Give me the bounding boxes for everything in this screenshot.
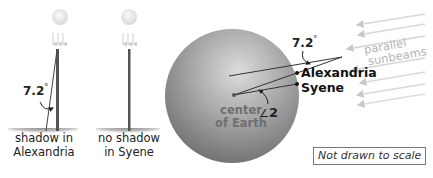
sun-ray-arrows-icon [53,33,63,44]
eratosthenes-diagram: 7.2° shadow in Alexandria no shadow in S… [0,0,433,178]
center-angle-label: ∠2 [259,106,278,119]
stick-syene [128,49,131,131]
alexandria-point [295,71,299,75]
alexandria-label: Alexandria [301,67,377,80]
syene-point [295,82,299,86]
angle-value: 7.2 [292,36,313,50]
center-of-earth-point [232,93,236,97]
degree-symbol: ° [44,83,48,92]
stick-alexandria [56,49,59,131]
alexandria-angle-label: 7.2° [23,85,48,97]
label-line: in Syene [96,145,162,159]
label-line: Alexandria [10,145,78,159]
degree-symbol: ° [313,35,317,44]
alexandria-stick-group [8,9,78,136]
earth-top-angle-label: 7.2° [292,37,317,49]
angle-value: 2 [269,105,278,120]
sun-icon [52,9,68,25]
label-line: shadow in [10,131,78,145]
sun-ray-arrows-icon [123,33,133,44]
angle-symbol-icon: ∠ [259,107,269,120]
angle-value: 7.2 [23,84,44,98]
not-to-scale-note: Not drawn to scale [313,147,426,165]
angle-arc-icon [40,102,53,109]
label-line: no shadow [96,131,162,145]
earth-sphere [165,29,299,163]
syene-stick-group [96,9,160,136]
top-angle-arc-icon [302,51,310,64]
syene-label: Syene [301,82,344,95]
sun-icon [121,9,137,25]
shadow-in-alexandria-label: shadow in Alexandria [10,131,78,159]
no-shadow-in-syene-label: no shadow in Syene [96,131,162,159]
